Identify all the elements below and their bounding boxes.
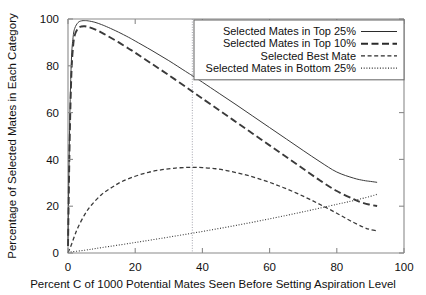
chart-legend: Selected Mates in Top 25%Selected Mates … — [194, 20, 404, 80]
x-tick-label: 0 — [65, 261, 71, 273]
legend-label-2: Selected Best Mate — [261, 50, 356, 62]
legend-label-1: Selected Mates in Top 10% — [223, 37, 356, 49]
x-tick-label: 40 — [196, 261, 209, 273]
y-tick-label: 80 — [46, 60, 59, 72]
x-tick-label: 20 — [129, 261, 142, 273]
y-axis-title: Percentage of Selected Mates in Each Cat… — [6, 13, 18, 259]
chart-container: 020406080100020406080100 Percent C of 10… — [0, 0, 426, 295]
y-tick-label: 0 — [53, 247, 59, 259]
y-tick-label: 100 — [40, 13, 59, 25]
x-tick-label: 100 — [394, 261, 413, 273]
y-tick-label: 40 — [46, 154, 59, 166]
x-axis-title: Percent C of 1000 Potential Mates Seen B… — [30, 278, 396, 290]
y-tick-label: 60 — [46, 107, 59, 119]
x-tick-label: 80 — [330, 261, 343, 273]
line-chart: 020406080100020406080100 Percent C of 10… — [0, 0, 426, 295]
legend-label-3: Selected Mates in Bottom 25% — [206, 62, 357, 74]
y-tick-label: 20 — [46, 200, 59, 212]
x-tick-label: 60 — [263, 261, 276, 273]
legend-label-0: Selected Mates in Top 25% — [223, 25, 356, 37]
